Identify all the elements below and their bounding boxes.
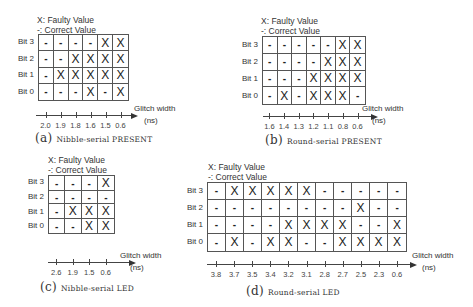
row-label: Bit 3 — [177, 186, 203, 195]
correct-cell: - — [321, 37, 336, 54]
axis-tick — [216, 261, 217, 267]
row-label: Bit 0 — [8, 87, 34, 96]
correct-cell: - — [307, 54, 322, 71]
axis-arrow-icon — [410, 262, 417, 268]
faulty-cell: X — [262, 183, 280, 200]
axis-tick — [269, 113, 270, 119]
correct-cell: - — [278, 54, 293, 71]
fault-grid: -XXXXX-------------X------XXXX--X-X-XX--… — [207, 182, 407, 252]
caption-tag: (b) — [265, 133, 283, 147]
correct-cell: - — [54, 51, 69, 67]
caption-text: Round-serial LED — [268, 288, 340, 297]
tick-label: 3.8 — [206, 270, 226, 279]
legend: X: Faulty Value-: Correct Value — [208, 162, 267, 182]
correct-cell: - — [39, 35, 54, 51]
correct-cell: - — [49, 176, 65, 191]
glitch-axis — [207, 264, 412, 265]
correct-cell: - — [388, 200, 406, 217]
faulty-cell: X — [307, 87, 322, 104]
correct-cell: - — [350, 87, 365, 104]
axis-tick — [379, 261, 380, 267]
correct-cell: - — [334, 200, 352, 217]
faulty-cell: X — [321, 87, 336, 104]
row-label: Bit 1 — [18, 207, 44, 216]
faulty-cell: X — [113, 51, 128, 67]
faulty-cell: X — [334, 234, 352, 251]
faulty-cell: X — [336, 87, 351, 104]
legend-correct: -: Correct Value — [208, 172, 267, 182]
tick-label: 3.2 — [278, 270, 298, 279]
panel-caption: (c)Nibble-serial LED — [40, 280, 134, 294]
fault-grid: ---X-----XXX--XX — [48, 175, 115, 234]
correct-cell: - — [292, 54, 307, 71]
faulty-cell: X — [262, 234, 280, 251]
axis-tick — [343, 113, 344, 119]
axis-tick — [284, 113, 285, 119]
row-label: Bit 1 — [8, 70, 34, 79]
faulty-cell: X — [388, 217, 406, 234]
axis-arrow-icon — [131, 113, 138, 119]
correct-cell: - — [39, 68, 54, 84]
row-label: Bit 2 — [18, 192, 44, 201]
correct-cell: - — [65, 219, 81, 233]
tick-label: 2.3 — [369, 270, 389, 279]
correct-cell: - — [65, 191, 81, 204]
correct-cell: - — [49, 204, 65, 219]
correct-cell: - — [69, 35, 84, 51]
faulty-cell: X — [83, 68, 98, 84]
axis-tick — [46, 112, 47, 118]
glitch-axis — [263, 116, 373, 117]
axis-tick — [270, 261, 271, 267]
correct-cell: - — [352, 217, 370, 234]
axis-tick — [252, 261, 253, 267]
correct-cell: - — [49, 219, 65, 233]
correct-cell: - — [316, 234, 334, 251]
row-label: Bit 2 — [177, 203, 203, 212]
correct-cell: - — [292, 87, 307, 104]
correct-cell: - — [82, 191, 98, 204]
correct-cell: - — [39, 84, 54, 100]
correct-cell: - — [54, 84, 69, 100]
axis-tick — [313, 113, 314, 119]
correct-cell: - — [263, 37, 278, 54]
correct-cell: - — [65, 176, 81, 191]
axis-unit: (ns) — [372, 116, 386, 125]
caption-text: Nibble-serial LED — [61, 284, 134, 293]
axis-tick — [397, 261, 398, 267]
axis-tick — [91, 112, 92, 118]
correct-cell: - — [98, 191, 114, 204]
faulty-cell: X — [98, 68, 113, 84]
faulty-cell: X — [298, 217, 316, 234]
panel-caption: (a)Nibble-serial PRESENT — [35, 131, 153, 145]
faulty-cell: X — [83, 51, 98, 67]
faulty-cell: X — [336, 71, 351, 88]
correct-cell: - — [370, 183, 388, 200]
correct-cell: - — [49, 191, 65, 204]
axis-tick — [325, 261, 326, 267]
faulty-cell: X — [113, 84, 128, 100]
correct-cell: - — [292, 71, 307, 88]
faulty-cell: X — [98, 204, 114, 219]
faulty-cell: X — [113, 35, 128, 51]
correct-cell: - — [292, 37, 307, 54]
correct-cell: - — [83, 35, 98, 51]
axis-unit: (ns) — [422, 263, 436, 272]
faulty-cell: X — [98, 176, 114, 191]
correct-cell: - — [262, 217, 280, 234]
correct-cell: - — [298, 200, 316, 217]
faulty-cell: X — [298, 183, 316, 200]
tick-label: 2.7 — [333, 270, 353, 279]
faulty-cell: X — [336, 54, 351, 71]
fault-grid: ----XX--XXXX-XXXXX---X-X — [38, 34, 129, 101]
correct-cell: - — [307, 37, 322, 54]
axis-tick — [328, 113, 329, 119]
tick-label: 3.5 — [242, 270, 262, 279]
faulty-cell: X — [244, 183, 262, 200]
row-label: Bit 2 — [232, 57, 258, 66]
axis-tick — [106, 259, 107, 265]
axis-tick — [56, 259, 57, 265]
correct-cell: - — [316, 183, 334, 200]
faulty-cell: X — [82, 204, 98, 219]
faulty-cell: X — [321, 54, 336, 71]
tick-label: 2.5 — [351, 270, 371, 279]
